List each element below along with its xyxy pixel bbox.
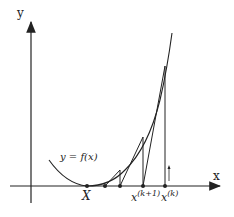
tangent-line-1: [143, 66, 165, 186]
function-curve: [49, 33, 172, 186]
tangent-line-2: [120, 137, 143, 186]
root-label: X: [81, 189, 91, 203]
point-x-k3: [103, 184, 107, 188]
x-k-label: x(k): [161, 189, 178, 204]
x-k1-label: x(k+1): [131, 189, 160, 204]
newton-method-diagram: y x y = f(x) X x(k+1) x(k): [0, 0, 234, 217]
point-x-k: [163, 184, 167, 188]
tangent-line-3: [105, 170, 120, 186]
x-axis-label: x: [213, 169, 220, 183]
point-root: [85, 184, 89, 188]
y-axis-label: y: [16, 6, 24, 20]
curve-label: y = f(x): [59, 151, 98, 162]
point-x-k1: [141, 184, 145, 188]
point-x-k2: [118, 184, 122, 188]
